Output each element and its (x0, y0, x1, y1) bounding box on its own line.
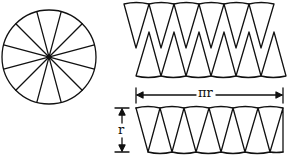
area-of-circle-diagram (0, 0, 296, 166)
parallelogram-arrangement (136, 107, 283, 154)
height-label: r (118, 123, 124, 136)
width-label: πr (198, 86, 213, 99)
sectored-circle (2, 10, 96, 104)
unrolled-sectors-separated (124, 3, 286, 78)
